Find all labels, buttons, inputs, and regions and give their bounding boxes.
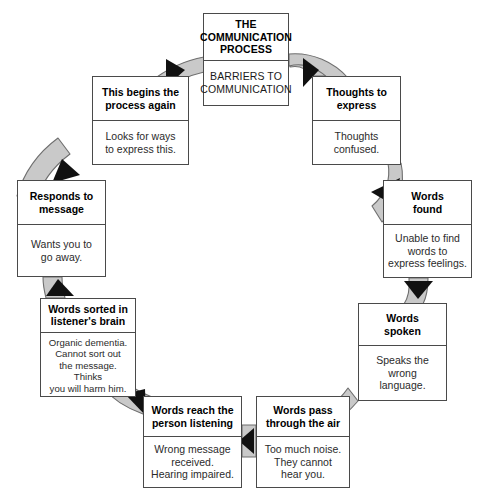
body-line: They cannot [265, 456, 341, 469]
body-line: Looks for ways [105, 130, 176, 143]
body-line: Wants you to [31, 238, 92, 251]
title-line: THE [200, 18, 292, 30]
node-this-begins-the-process-again-title: This begins the process again [93, 77, 188, 121]
title-line: Words sorted in [48, 303, 128, 315]
node-words-found[interactable]: Words found Unable to find words to expr… [383, 180, 472, 278]
body-line: Too much noise. [265, 443, 341, 456]
node-words-sorted-in-listeners-brain-title: Words sorted in listener's brain [41, 299, 135, 333]
node-words-found-title: Words found [384, 181, 471, 225]
body-line: Unable to find [388, 232, 467, 245]
node-thoughts-to-express-title: Thoughts to express [313, 77, 400, 121]
body-line: confused. [334, 143, 380, 156]
body-line: Speaks the [376, 354, 429, 367]
title-line: PROCESS [200, 43, 292, 55]
diagram-canvas: THE COMMUNICATION PROCESS BARRIERS TO CO… [0, 0, 482, 499]
node-words-spoken-body: Speaks the wrong language. [359, 346, 446, 400]
body-line: you will harm him. [44, 383, 132, 395]
body-line: to express this. [105, 143, 176, 156]
node-thoughts-to-express-body: Thoughts confused. [313, 121, 400, 164]
body-line: Wrong message [151, 443, 234, 456]
title-line: Responds to [30, 190, 94, 202]
body-line: Thoughts [334, 130, 380, 143]
title-line: message [30, 203, 94, 215]
title-line: express [326, 99, 387, 111]
body-line: BARRIERS TO [200, 70, 292, 83]
body-line: received. [151, 456, 234, 469]
body-line: the message. Thinks [44, 360, 132, 383]
body-line: wrong [376, 367, 429, 380]
node-communication-process-body: BARRIERS TO COMMUNICATION [204, 61, 288, 105]
node-words-reach-person-listening-body: Wrong message received. Hearing impaired… [144, 437, 241, 487]
body-line: language. [376, 379, 429, 392]
body-line: express feelings. [388, 257, 467, 270]
node-words-pass-through-air[interactable]: Words pass through the air Too much nois… [256, 396, 350, 488]
node-words-found-body: Unable to find words to express feelings… [384, 225, 471, 277]
title-line: listener's brain [48, 315, 128, 327]
title-line: Thoughts to [326, 86, 387, 98]
title-line: Words reach the [151, 404, 233, 416]
node-this-begins-the-process-again[interactable]: This begins the process again Looks for … [92, 76, 189, 165]
node-words-reach-person-listening[interactable]: Words reach the person listening Wrong m… [143, 396, 242, 488]
node-words-reach-person-listening-title: Words reach the person listening [144, 397, 241, 437]
title-line: Words pass [266, 404, 340, 416]
body-line: go away. [31, 251, 92, 264]
node-communication-process-title: THE COMMUNICATION PROCESS [204, 14, 288, 61]
title-line: Words [411, 190, 443, 202]
body-line: hear you. [265, 468, 341, 481]
body-line: COMMUNICATION [200, 83, 292, 96]
body-line: Hearing impaired. [151, 468, 234, 481]
node-words-spoken-title: Words spoken [359, 304, 446, 346]
body-line: Organic dementia. [44, 337, 132, 349]
title-line: Words [384, 312, 421, 324]
node-communication-process[interactable]: THE COMMUNICATION PROCESS BARRIERS TO CO… [203, 13, 289, 106]
node-responds-to-message[interactable]: Responds to message Wants you to go away… [17, 180, 106, 277]
title-line: process again [102, 99, 179, 111]
title-line: spoken [384, 325, 421, 337]
node-words-pass-through-air-title: Words pass through the air [257, 397, 349, 437]
node-this-begins-the-process-again-body: Looks for ways to express this. [93, 121, 188, 164]
title-line: COMMUNICATION [200, 31, 292, 43]
title-line: through the air [266, 417, 340, 429]
body-line: words to [388, 245, 467, 258]
node-responds-to-message-title: Responds to message [18, 181, 105, 225]
node-words-sorted-in-listeners-brain-body: Organic dementia. Cannot sort out the me… [41, 333, 135, 399]
body-line: Cannot sort out [44, 348, 132, 360]
title-line: found [411, 203, 443, 215]
node-words-spoken[interactable]: Words spoken Speaks the wrong language. [358, 303, 447, 401]
node-words-sorted-in-listeners-brain[interactable]: Words sorted in listener's brain Organic… [40, 298, 136, 397]
node-thoughts-to-express[interactable]: Thoughts to express Thoughts confused. [312, 76, 401, 165]
title-line: This begins the [102, 86, 179, 98]
node-responds-to-message-body: Wants you to go away. [18, 225, 105, 276]
title-line: person listening [151, 417, 233, 429]
node-words-pass-through-air-body: Too much noise. They cannot hear you. [257, 437, 349, 487]
